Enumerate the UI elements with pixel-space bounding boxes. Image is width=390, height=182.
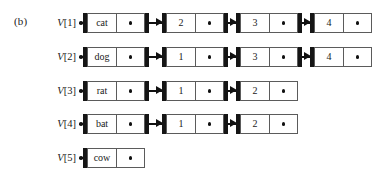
node-key-cell: cow <box>87 148 117 168</box>
slot-label-5: V[5] <box>46 148 76 168</box>
next-pointer-arrow-icon <box>228 81 236 101</box>
null-pointer-dot-icon <box>356 55 360 59</box>
node-key-cell: 3 <box>240 13 270 33</box>
next-pointer-dot-icon <box>208 55 212 59</box>
slot-label-2: V[2] <box>46 47 76 67</box>
slot-label-3: V[3] <box>46 81 76 101</box>
list-node: cat <box>83 13 149 33</box>
node-key-cell: 4 <box>314 13 344 33</box>
node-key-cell: bat <box>87 114 117 134</box>
next-pointer-dot-icon <box>129 122 133 126</box>
null-pointer-dot-icon <box>356 21 360 25</box>
next-pointer-arrow-icon <box>149 81 162 101</box>
next-pointer-arrow-icon <box>149 114 162 134</box>
node-key-cell: rat <box>87 81 117 101</box>
node-key-cell: 1 <box>166 47 196 67</box>
list-node: 4 <box>310 13 372 33</box>
next-pointer-arrow-icon <box>302 47 310 67</box>
node-key-cell: 3 <box>240 47 270 67</box>
node-key-cell: 2 <box>240 114 270 134</box>
node-next-pointer-cell <box>196 114 224 134</box>
next-pointer-dot-icon <box>208 89 212 93</box>
node-next-pointer-cell <box>117 47 145 67</box>
next-pointer-dot-icon <box>208 21 212 25</box>
next-pointer-dot-icon <box>208 122 212 126</box>
node-next-pointer-cell <box>270 13 298 33</box>
node-next-pointer-cell <box>270 47 298 67</box>
node-null-pointer-cell <box>344 47 372 67</box>
node-key-cell: 1 <box>166 114 196 134</box>
node-key-cell: 1 <box>166 81 196 101</box>
list-node: dog <box>83 47 149 67</box>
node-key-cell: cat <box>87 13 117 33</box>
list-node: 1 <box>162 114 228 134</box>
next-pointer-dot-icon <box>282 21 286 25</box>
slot-label-4: V[4] <box>46 114 76 134</box>
node-key-cell: 4 <box>314 47 344 67</box>
next-pointer-arrow-icon <box>228 47 236 67</box>
node-next-pointer-cell <box>196 13 224 33</box>
node-next-pointer-cell <box>117 114 145 134</box>
list-node: 3 <box>236 47 302 67</box>
list-node: 2 <box>236 114 298 134</box>
next-pointer-dot-icon <box>129 89 133 93</box>
next-pointer-arrow-icon <box>149 13 162 33</box>
list-node: 1 <box>162 81 228 101</box>
next-pointer-dot-icon <box>129 55 133 59</box>
list-node: cow <box>83 148 145 168</box>
list-node: 3 <box>236 13 302 33</box>
null-pointer-dot-icon <box>282 89 286 93</box>
next-pointer-dot-icon <box>282 55 286 59</box>
slot-label-1: V[1] <box>46 13 76 33</box>
node-key-cell: 2 <box>166 13 196 33</box>
node-null-pointer-cell <box>344 13 372 33</box>
node-null-pointer-cell <box>270 81 298 101</box>
node-next-pointer-cell <box>117 13 145 33</box>
node-null-pointer-cell <box>117 148 145 168</box>
next-pointer-arrow-icon <box>302 13 310 33</box>
node-key-cell: dog <box>87 47 117 67</box>
linked-list-figure: (b) V[1]cat234V[2]dog134V[3]rat12V[4]bat… <box>0 0 390 182</box>
next-pointer-arrow-icon <box>228 13 236 33</box>
null-pointer-dot-icon <box>129 156 133 160</box>
next-pointer-dot-icon <box>129 21 133 25</box>
list-node: 2 <box>236 81 298 101</box>
next-pointer-arrow-icon <box>149 47 162 67</box>
node-key-cell: 2 <box>240 81 270 101</box>
node-next-pointer-cell <box>196 81 224 101</box>
list-node: 2 <box>162 13 228 33</box>
node-null-pointer-cell <box>270 114 298 134</box>
figure-part-label: (b) <box>14 15 27 27</box>
list-node: bat <box>83 114 149 134</box>
next-pointer-arrow-icon <box>228 114 236 134</box>
node-next-pointer-cell <box>196 47 224 67</box>
node-next-pointer-cell <box>117 81 145 101</box>
list-node: 1 <box>162 47 228 67</box>
list-node: rat <box>83 81 149 101</box>
null-pointer-dot-icon <box>282 122 286 126</box>
list-node: 4 <box>310 47 372 67</box>
